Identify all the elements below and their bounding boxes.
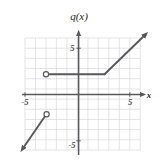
open-circle-upper (43, 72, 48, 77)
axes (22, 33, 143, 155)
open-circle-lower (44, 112, 49, 117)
curve-segment-lower-left (23, 115, 47, 149)
x-axis-label: x (146, 90, 152, 100)
y-tick-label-neg5: -5 (68, 140, 76, 150)
x-tick-label-neg5: -5 (21, 97, 29, 107)
function-graph-figure: q(x) 5 -5 -5 5 x (0, 0, 159, 166)
graph-canvas: q(x) 5 -5 -5 5 x (0, 0, 159, 166)
x-tick-label-5: 5 (128, 97, 133, 107)
function-curve (23, 35, 146, 150)
chart-title: q(x) (70, 10, 88, 23)
